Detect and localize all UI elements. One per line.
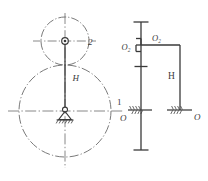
kinematic-diagram-figure: 2 H — [0, 0, 208, 181]
planet-label-2: 2 — [88, 37, 93, 47]
diagram-canvas: 2 H — [0, 0, 208, 181]
figure-background — [0, 0, 208, 181]
link-label-1: 1 — [117, 97, 122, 107]
ground-label-O-left: O — [120, 113, 127, 123]
arm-label-H-right: H — [168, 71, 175, 81]
arm-label-H-left: H — [72, 73, 80, 83]
planet-pin-joint-center — [64, 40, 67, 43]
ground-label-O-right: O — [194, 112, 201, 122]
